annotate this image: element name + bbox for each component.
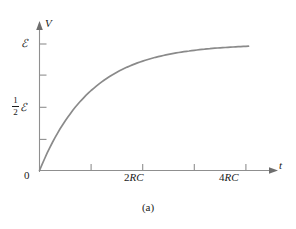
fraction-denominator: 2 (12, 108, 19, 117)
x-axis-arrowhead (269, 167, 278, 173)
figure-caption: (a) (0, 202, 296, 213)
y-tick-label-emf: ℰ (21, 38, 28, 49)
x-axis-label: t (279, 160, 282, 171)
x-tick-label-2rc: 2RC (124, 172, 144, 183)
one-half-fraction: 1 2 (12, 96, 19, 117)
x-tick-2rc-unit: RC (130, 171, 144, 183)
y-tick-label-half-emf: 1 2 ℰ (12, 97, 27, 118)
origin-label: 0 (24, 170, 30, 181)
y-axis-label: V (45, 18, 52, 29)
x-tick-label-4rc: 4RC (219, 172, 239, 183)
emf-symbol: ℰ (20, 102, 27, 113)
fraction-numerator: 1 (12, 96, 19, 105)
figure-container: V t 0 ℰ 1 2 ℰ 2RC 4RC (a) (0, 0, 296, 229)
charging-curve (40, 46, 249, 170)
rc-charging-plot (0, 0, 296, 229)
x-tick-4rc-unit: RC (225, 171, 239, 183)
y-axis-arrowhead (36, 21, 43, 30)
